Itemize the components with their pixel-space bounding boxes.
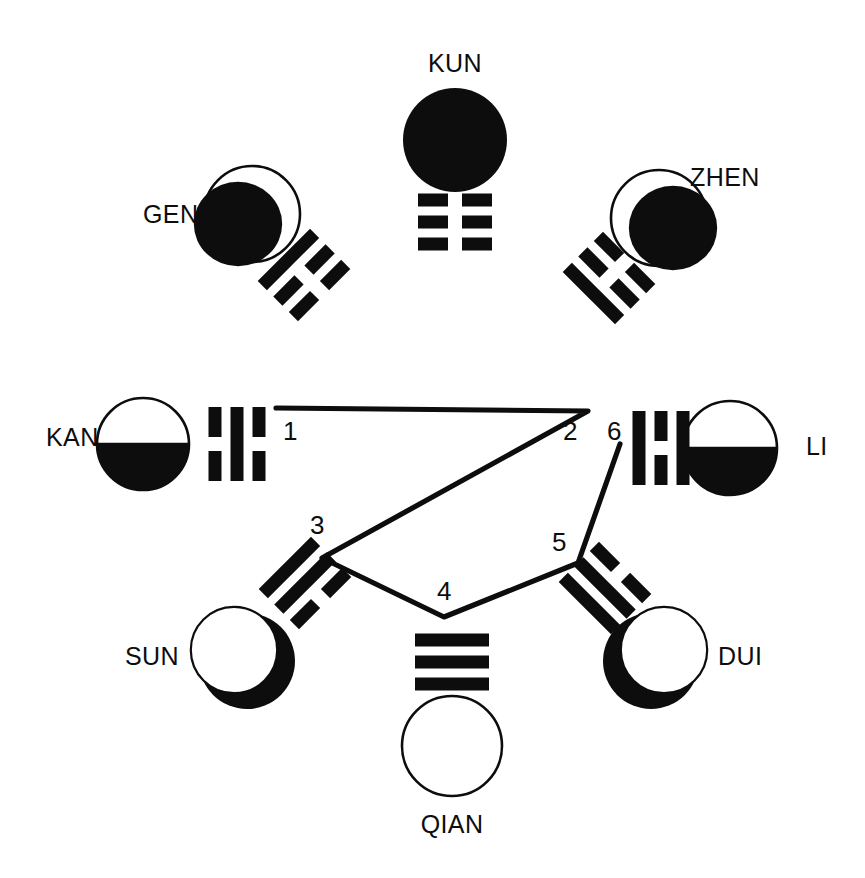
label-kun: KUN [428, 49, 482, 77]
yin-line-bar-right [462, 216, 492, 229]
yin-line-bar-right [462, 238, 492, 251]
yang-line-bar [633, 411, 646, 485]
moon-shadow-dark [629, 186, 717, 270]
moon-lit-area [621, 607, 707, 693]
node-number-2: 2 [563, 416, 577, 446]
node-number-1: 1 [283, 416, 297, 446]
moon-disc-outline [402, 696, 502, 796]
yin-line-bar-left [253, 451, 266, 481]
label-sun: SUN [125, 642, 179, 670]
yang-line-bar [677, 411, 690, 485]
yang-line-bar [231, 407, 244, 481]
moon-qian [402, 696, 502, 796]
label-gen: GEN [143, 200, 198, 228]
label-kan: KAN [46, 423, 99, 451]
trigram-qian [415, 634, 489, 691]
yin-line-bar-right [655, 411, 668, 441]
yin-line-bar-left [418, 216, 448, 229]
moon-lit-area [191, 607, 277, 693]
yang-line-bar [415, 634, 489, 647]
yin-line-bar-right [462, 194, 492, 207]
yang-line-bar [415, 656, 489, 669]
yin-line-bar-left [418, 194, 448, 207]
moon-shadow-dark [194, 182, 282, 266]
diagram-canvas: KUNGENZHENKANLISUNDUIQIAN123456 [0, 0, 865, 878]
yang-line-bar [415, 678, 489, 691]
yin-line-bar-left [209, 451, 222, 481]
label-dui: DUI [718, 642, 762, 670]
yin-line-bar-left [418, 238, 448, 251]
moon-li [683, 401, 777, 495]
moon-disc-dark [403, 88, 507, 192]
node-number-6: 6 [607, 416, 621, 446]
moon-kun [403, 88, 507, 192]
moon-kan [97, 398, 189, 490]
label-zhen: ZHEN [690, 163, 760, 191]
label-qian: QIAN [421, 810, 484, 838]
yin-line-bar-right [253, 407, 266, 437]
yin-line-bar-right [209, 407, 222, 437]
node-number-3: 3 [310, 510, 324, 540]
label-li: LI [806, 432, 828, 460]
node-number-4: 4 [437, 576, 451, 606]
node-number-5: 5 [552, 527, 566, 557]
yin-line-bar-left [655, 455, 668, 485]
trigram-moon-diagram: KUNGENZHENKANLISUNDUIQIAN123456 [0, 0, 865, 878]
